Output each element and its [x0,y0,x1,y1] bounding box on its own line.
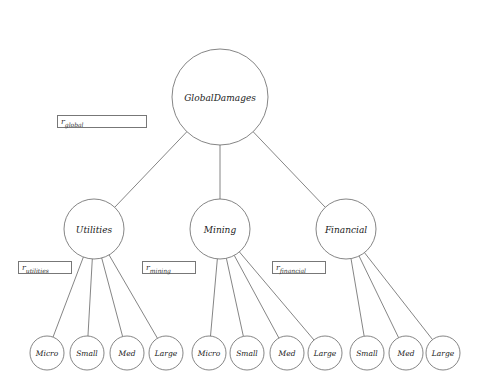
param-box-global: rglobal [57,115,147,128]
leaf-utilities-small: Small [70,336,104,370]
param-box-financial: rfinancial [272,261,326,274]
node-globaldamages: GlobalDamages [172,49,268,145]
edge-utilities-med [102,258,123,337]
leaf-utilities-large: Large [149,336,183,370]
hierarchy-diagram: GlobalDamagesUtilitiesMicroSmallMedLarge… [0,0,477,391]
node-label: GlobalDamages [184,93,256,103]
param-subscript: financial [280,267,306,274]
edge-financial-large [364,253,432,340]
param-box-utilities: rutilities [18,261,72,274]
node-label: Large [431,349,455,358]
node-label: Large [313,349,337,358]
leaf-mining-large: Large [308,336,342,370]
param-subscript: global [65,121,84,128]
node-label: Small [76,349,98,358]
edge-financial-small [351,259,364,337]
edge-utilities-small [88,259,92,336]
node-label: Med [397,349,415,358]
node-label: Small [236,349,258,358]
param-subscript: utilities [26,267,49,274]
node-label: Large [154,349,178,358]
node-financial: Financial [316,199,376,259]
leaf-financial-med: Med [389,336,423,370]
leaf-financial-large: Large [426,336,460,370]
node-label: Small [356,349,378,358]
edge-mining-small [226,258,243,336]
node-label: Med [278,349,296,358]
edge-financial-med [359,256,399,338]
edge-root-utilities [115,132,187,208]
node-utilities: Utilities [64,199,124,259]
node-label: Mining [203,225,237,235]
leaf-mining-micro: Micro [192,336,226,370]
node-mining: Mining [190,199,250,259]
leaf-mining-med: Med [270,336,304,370]
node-label: Micro [35,349,59,358]
edge-root-financial [253,132,325,208]
leaf-mining-small: Small [230,336,264,370]
param-box-mining: rmining [142,261,196,274]
param-subscript: mining [150,267,171,274]
edge-mining-micro [211,259,218,336]
node-label: Med [118,349,136,358]
node-label: Utilities [76,225,113,235]
leaf-utilities-med: Med [110,336,144,370]
node-label: Micro [197,349,221,358]
node-label: Financial [324,225,367,235]
leaf-financial-small: Small [350,336,384,370]
leaf-utilities-micro: Micro [30,336,64,370]
